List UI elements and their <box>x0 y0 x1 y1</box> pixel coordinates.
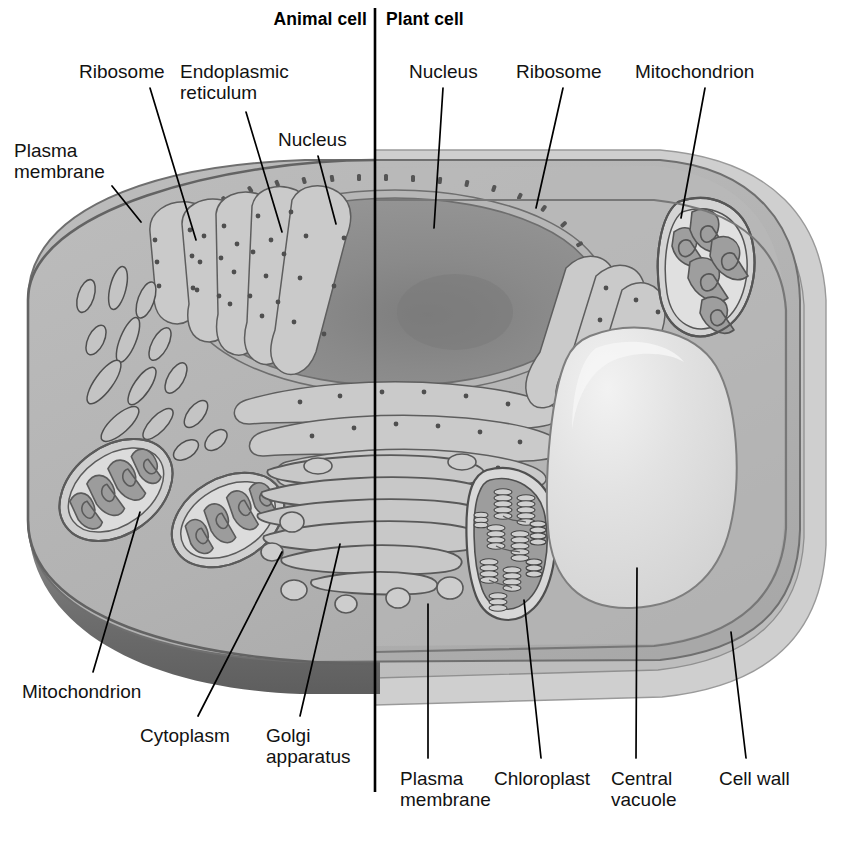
label-plant-chloroplast: Chloroplast <box>494 768 590 789</box>
nucleolus <box>397 274 513 350</box>
cell-diagram-illustration <box>0 0 861 852</box>
label-animal-ribosome: Ribosome <box>79 61 165 82</box>
tonoplast <box>547 328 737 608</box>
label-plant-plasma-membrane-line1: Plasma <box>400 768 491 789</box>
label-animal-plasma-membrane-line1: Plasma <box>14 140 105 161</box>
label-plant-plasma-membrane-line2: membrane <box>400 789 491 810</box>
label-animal-golgi: Golgi apparatus <box>266 725 351 767</box>
label-animal-plasma-membrane-line2: membrane <box>14 161 105 182</box>
label-animal-er-line2: reticulum <box>180 82 289 103</box>
label-plant-central-vacuole: Central vacuole <box>611 768 677 810</box>
label-plant-central-vacuole-line1: Central <box>611 768 677 789</box>
chloroplast <box>466 468 556 620</box>
label-animal-plasma-membrane: Plasma membrane <box>14 140 105 182</box>
label-animal-nucleus: Nucleus <box>278 129 347 150</box>
mitochondrion-plant <box>658 198 755 336</box>
leader-plant-central-vacuole <box>636 568 637 758</box>
label-plant-plasma-membrane: Plasma membrane <box>400 768 491 810</box>
label-animal-golgi-line2: apparatus <box>266 746 351 767</box>
label-plant-nucleus: Nucleus <box>409 61 478 82</box>
label-animal-cytoplasm: Cytoplasm <box>140 725 230 746</box>
label-plant-ribosome: Ribosome <box>516 61 602 82</box>
header-plant-cell: Plant cell <box>386 9 464 30</box>
label-animal-golgi-line1: Golgi <box>266 725 351 746</box>
label-plant-mitochondrion: Mitochondrion <box>635 61 754 82</box>
label-plant-central-vacuole-line2: vacuole <box>611 789 677 810</box>
figure-canvas: Animal cell Plant cell Plasma membrane R… <box>0 0 861 852</box>
label-animal-mitochondrion: Mitochondrion <box>22 681 141 702</box>
central-vacuole <box>547 328 737 608</box>
header-animal-cell: Animal cell <box>274 9 368 30</box>
label-animal-er-line1: Endoplasmic <box>180 61 289 82</box>
label-plant-cell-wall: Cell wall <box>719 768 790 789</box>
label-animal-er: Endoplasmic reticulum <box>180 61 289 103</box>
